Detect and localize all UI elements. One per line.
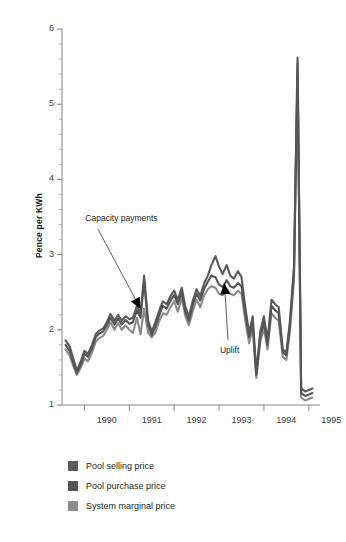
x-axis-tick-label: 1993 (221, 415, 261, 425)
annotation-leader-line (98, 229, 141, 309)
y-axis-tick-label: 2 (28, 324, 54, 334)
x-axis-tick-label: 1994 (266, 415, 306, 425)
y-axis-tick-label: 1 (28, 399, 54, 409)
y-axis-tick-label: 6 (28, 23, 54, 33)
chart-legend: Pool selling pricePool purchase priceSys… (68, 456, 308, 516)
legend-item[interactable]: System marginal price (68, 496, 308, 516)
y-axis-tick-label: 3 (28, 249, 54, 259)
chart-annotation-label: Capacity payments (85, 213, 157, 223)
series-line (66, 64, 313, 396)
y-axis-tick-label: 4 (28, 173, 54, 183)
legend-item[interactable]: Pool selling price (68, 456, 308, 476)
x-axis-tick-label: 1990 (87, 415, 127, 425)
legend-item[interactable]: Pool purchase price (68, 476, 308, 496)
legend-item-label: System marginal price (86, 502, 175, 511)
x-axis-tick-label: 1991 (132, 415, 172, 425)
x-axis-tick-label: 1992 (177, 415, 217, 425)
y-axis-tick-label: 5 (28, 98, 54, 108)
series-line (66, 58, 313, 392)
legend-color-swatch (68, 461, 78, 471)
legend-color-swatch (68, 481, 78, 491)
legend-item-label: Pool purchase price (86, 482, 166, 491)
chart-annotation-label: Uplift (220, 345, 239, 355)
x-axis-tick-label: 1995 (311, 415, 346, 425)
legend-item-label: Pool selling price (86, 462, 154, 471)
legend-color-swatch (68, 501, 78, 511)
